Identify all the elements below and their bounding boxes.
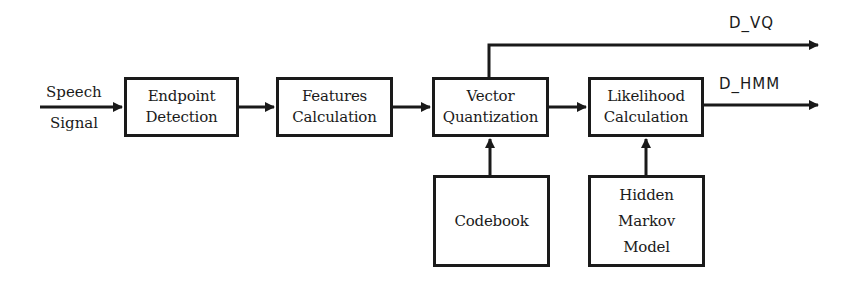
output-label-dvq: D_VQ	[729, 14, 774, 32]
block-hidden-markov-model: Hidden Markov Model	[588, 175, 705, 267]
block-codebook: Codebook	[433, 175, 550, 267]
block-label: Vector	[467, 86, 515, 107]
block-label: Endpoint	[148, 86, 216, 107]
block-label: Markov	[618, 208, 675, 234]
arrow-vq-to-dvq	[489, 45, 818, 77]
block-vector-quantization: Vector Quantization	[432, 77, 549, 137]
block-label: Likelihood	[607, 86, 685, 107]
input-label-signal: Signal	[50, 114, 98, 132]
output-label-dhmm: D_HMM	[719, 75, 780, 93]
block-features-calculation: Features Calculation	[276, 77, 393, 137]
block-endpoint-detection: Endpoint Detection	[124, 77, 239, 137]
input-label-speech: Speech	[46, 83, 102, 101]
block-label: Quantization	[443, 107, 538, 128]
block-label: Hidden	[619, 182, 673, 208]
block-likelihood-calculation: Likelihood Calculation	[588, 77, 704, 137]
block-label: Features	[302, 86, 367, 107]
block-label: Detection	[146, 107, 218, 128]
block-label: Model	[623, 234, 670, 260]
block-label: Calculation	[292, 107, 376, 128]
block-label: Codebook	[454, 211, 528, 232]
connector-wires	[0, 0, 857, 286]
block-label: Calculation	[604, 107, 688, 128]
